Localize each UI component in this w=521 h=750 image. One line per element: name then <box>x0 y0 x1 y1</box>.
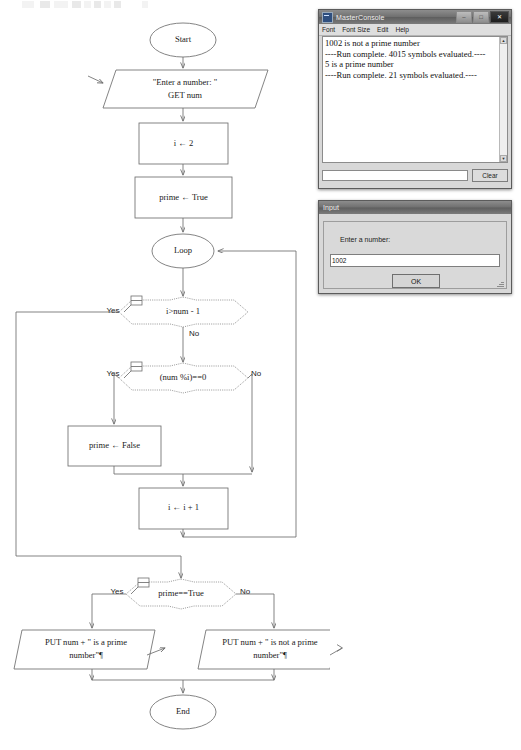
scroll-up-icon[interactable]: ▲ <box>500 37 507 44</box>
menu-item-help[interactable]: Help <box>395 26 409 33</box>
number-input-value: 1002 <box>331 255 499 266</box>
minimize-button[interactable]: – <box>456 11 472 23</box>
node-set-false-label: prime ← False <box>89 440 140 450</box>
console-line: 1002 is not a prime number <box>325 38 505 49</box>
console-line: ----Run complete. 4015 symbols evaluated… <box>325 49 505 60</box>
console-scrollbar[interactable]: ▲ ▼ <box>499 37 507 162</box>
console-window[interactable]: MasterConsole – □ ✕ Font Font Size Edit … <box>318 9 512 189</box>
node-cond-i-label: i>num - 1 <box>166 306 200 316</box>
input-dialog-titlebar[interactable]: Input <box>319 201 511 214</box>
menu-item-edit[interactable]: Edit <box>377 26 388 33</box>
cond-prime-no-label: No <box>240 587 251 596</box>
node-init-i-label: i ← 2 <box>174 138 194 148</box>
node-incr-label: i ← i + 1 <box>168 502 199 512</box>
input-dialog-prompt: Enter a number: <box>340 236 390 243</box>
output-not-prime-arrow-tail <box>328 640 346 658</box>
menu-item-font[interactable]: Font <box>322 26 335 33</box>
menu-item-font-size[interactable]: Font Size <box>342 26 370 33</box>
console-menubar: Font Font Size Edit Help <box>319 24 511 36</box>
input-dialog-title: Input <box>321 204 509 211</box>
node-output-not-prime-label-2: number"¶ <box>253 650 287 660</box>
node-input-label-1: "Enter a number: " <box>153 77 218 87</box>
input-dialog[interactable]: Input Enter a number: 1002 OK <box>318 200 512 294</box>
node-output-prime-label-1: PUT num + " is a prime <box>45 637 127 647</box>
cond-i-no-label: No <box>189 329 200 338</box>
clear-button[interactable]: Clear <box>472 169 508 182</box>
scroll-down-icon[interactable]: ▼ <box>500 155 507 162</box>
maximize-button[interactable]: □ <box>473 11 489 23</box>
node-loop-label: Loop <box>174 245 192 255</box>
close-button[interactable]: ✕ <box>490 11 509 23</box>
resize-grip[interactable] <box>497 280 504 287</box>
node-end-label: End <box>176 706 191 716</box>
console-line: ----Run complete. 21 symbols evaluated.-… <box>325 70 505 81</box>
flowchart-canvas: Start "Enter a number: " GET num i ← 2 p… <box>0 0 330 750</box>
node-input-label-2: GET num <box>168 90 202 100</box>
node-cond-mod-label: (num %i)==0 <box>160 372 207 382</box>
cond-prime-yes-label: Yes <box>110 587 123 596</box>
console-output-area[interactable]: 1002 is not a prime number ----Run compl… <box>322 36 508 163</box>
node-output-not-prime-label-1: PUT num + " is not a prime <box>222 637 318 647</box>
node-output-prime-label-2: number"¶ <box>69 650 103 660</box>
console-input-field[interactable] <box>322 170 468 181</box>
console-input-row: Clear <box>322 165 508 185</box>
console-line-list: 1002 is not a prime number ----Run compl… <box>323 37 507 80</box>
console-window-buttons: – □ ✕ <box>456 11 509 23</box>
number-input-field[interactable]: 1002 <box>330 254 500 267</box>
console-title: MasterConsole <box>336 14 456 21</box>
app-icon <box>322 12 333 23</box>
node-cond-prime-label: prime==True <box>158 588 204 598</box>
console-line: 5 is a prime number <box>325 59 505 70</box>
cond-i-yes-label: Yes <box>106 306 119 315</box>
ok-button[interactable]: OK <box>392 274 440 288</box>
node-start-label: Start <box>175 34 192 44</box>
console-titlebar[interactable]: MasterConsole – □ ✕ <box>319 10 511 24</box>
entry-arrow <box>88 76 103 83</box>
node-init-prime-label: prime ← True <box>159 192 208 202</box>
input-dialog-body: Enter a number: 1002 OK <box>323 221 507 289</box>
cond-mod-no-label: No <box>251 369 262 378</box>
